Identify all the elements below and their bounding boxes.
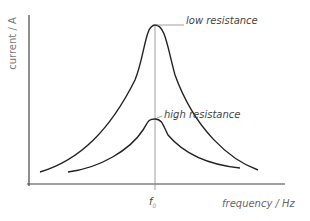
low-resistance-label: low resistance [186, 15, 258, 26]
y-axis-label: current / A [7, 17, 18, 70]
resonance-plot [0, 0, 310, 221]
f0-sub: 0 [153, 202, 157, 209]
f0-label: f0 [149, 196, 156, 209]
high-resistance-label: high resistance [164, 109, 240, 120]
high-resistance-curve [68, 119, 240, 172]
x-axis-label: frequency / Hz [222, 198, 295, 209]
low-resistance-curve [40, 25, 258, 172]
high-label-leader [157, 116, 162, 118]
